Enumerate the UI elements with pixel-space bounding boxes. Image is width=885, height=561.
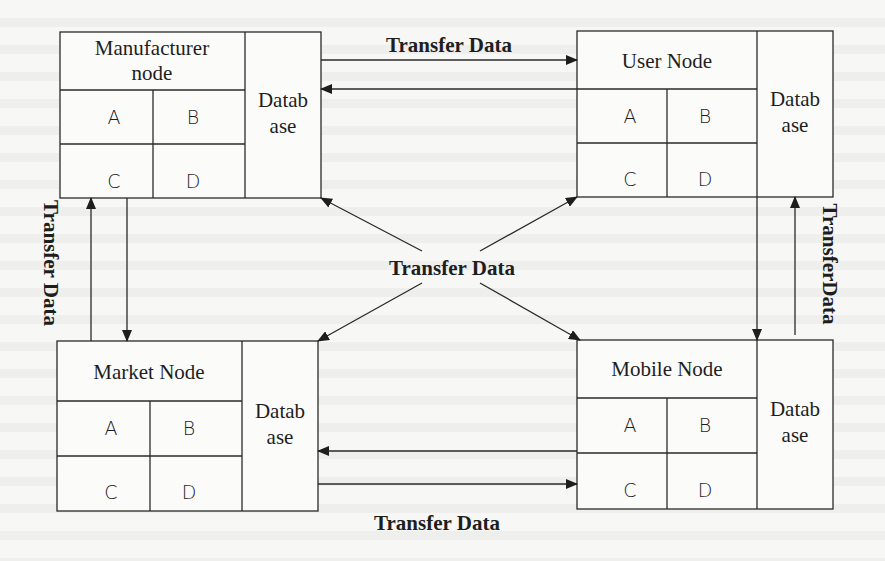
arrow-center-to-manufacturer <box>321 198 422 251</box>
manufacturer-cell-c: C <box>107 170 120 192</box>
manufacturer-cell-a: A <box>108 106 121 128</box>
edge-label-right: TransferData <box>818 204 842 325</box>
market-cell-d: D <box>182 481 197 503</box>
mobile-node[interactable]: Mobile Node A B C D Datab ase <box>577 340 833 509</box>
market-cell-b: B <box>183 417 195 439</box>
edge-manufacturer-user: Transfer Data <box>321 33 577 89</box>
mobile-cell-a: A <box>624 414 637 436</box>
mobile-database-label-line2: ase <box>782 423 809 447</box>
arrow-center-to-mobile <box>480 283 580 340</box>
user-cell-d: D <box>698 168 713 190</box>
arrow-center-to-market <box>318 283 422 341</box>
manufacturer-node[interactable]: Manufacturer node A B C D Datab ase <box>60 32 321 198</box>
manufacturer-database-label-line1: Datab <box>258 88 308 112</box>
market-node[interactable]: Market Node A B C D Datab ase <box>57 341 318 511</box>
user-database-label-line2: ase <box>782 113 809 137</box>
user-cell-a: A <box>624 105 637 127</box>
manufacturer-cell-b: B <box>187 106 199 128</box>
market-cell-a: A <box>105 417 118 439</box>
market-database-label-line2: ase <box>267 425 294 449</box>
mobile-cell-b: B <box>699 414 711 436</box>
manufacturer-cell-d: D <box>186 170 201 192</box>
user-cell-c: C <box>623 168 636 190</box>
manufacturer-node-title-line1: Manufacturer <box>95 36 209 60</box>
edge-center-hub: Transfer Data <box>318 197 580 341</box>
market-database-label-line1: Datab <box>255 399 305 423</box>
arrow-center-to-user <box>480 197 577 251</box>
user-database-label-line1: Datab <box>770 87 820 111</box>
market-cell-c: C <box>104 481 117 503</box>
user-node-title: User Node <box>622 49 712 73</box>
edge-label-top: Transfer Data <box>386 33 512 57</box>
edge-label-bottom: Transfer Data <box>374 511 500 535</box>
mobile-node-title: Mobile Node <box>611 357 722 381</box>
data-transfer-diagram: Manufacturer node A B C D Datab ase User… <box>0 0 885 561</box>
user-cell-b: B <box>699 105 711 127</box>
edge-user-mobile: TransferData <box>757 197 842 340</box>
edge-label-center: Transfer Data <box>389 256 515 280</box>
edge-manufacturer-market: Transfer Data <box>39 198 127 341</box>
edge-label-left: Transfer Data <box>39 200 63 326</box>
mobile-database-label-line1: Datab <box>770 397 820 421</box>
user-node[interactable]: User Node A B C D Datab ase <box>577 31 833 197</box>
mobile-cell-c: C <box>623 479 636 501</box>
mobile-cell-d: D <box>698 479 713 501</box>
edge-market-mobile: Transfer Data <box>318 451 577 535</box>
manufacturer-database-label-line2: ase <box>270 114 297 138</box>
manufacturer-node-title-line2: node <box>132 61 173 85</box>
market-node-title: Market Node <box>93 360 204 384</box>
